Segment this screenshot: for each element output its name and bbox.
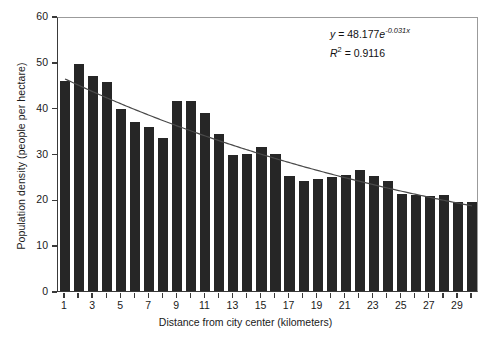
bar bbox=[341, 175, 351, 291]
bar bbox=[74, 64, 84, 291]
x-axis-title: Distance from city center (kilometers) bbox=[0, 316, 491, 328]
bar bbox=[383, 181, 393, 291]
bar bbox=[270, 154, 280, 292]
equation-line: y = 48.177e-0.031x bbox=[330, 23, 410, 42]
x-tick-mark bbox=[218, 293, 219, 298]
bar bbox=[60, 81, 70, 291]
y-tick-label: 50 bbox=[22, 56, 48, 68]
x-tick-mark bbox=[288, 293, 289, 298]
equation-annotation: y = 48.177e-0.031x R2 = 0.9116 bbox=[330, 23, 410, 60]
bar bbox=[116, 109, 126, 291]
bar bbox=[102, 82, 112, 291]
bar bbox=[411, 195, 421, 291]
x-tick-mark bbox=[176, 293, 177, 298]
x-tick-label: 9 bbox=[164, 299, 188, 311]
bar bbox=[256, 147, 266, 291]
bar bbox=[186, 101, 196, 291]
bar bbox=[130, 122, 140, 291]
x-tick-mark bbox=[120, 293, 121, 298]
x-tick-label: 27 bbox=[417, 299, 441, 311]
x-tick-mark bbox=[162, 293, 163, 298]
x-tick-mark bbox=[148, 293, 149, 298]
r-symbol: R bbox=[330, 46, 338, 58]
y-tick-label: 40 bbox=[22, 102, 48, 114]
x-tick-mark bbox=[386, 293, 387, 298]
bar bbox=[299, 181, 309, 291]
x-tick-label: 15 bbox=[248, 299, 272, 311]
x-tick-mark bbox=[372, 293, 373, 298]
r-squared-value: = 0.9116 bbox=[342, 46, 385, 58]
bar bbox=[425, 196, 435, 291]
y-tick-label: 10 bbox=[22, 239, 48, 251]
x-tick-mark bbox=[442, 293, 443, 298]
y-tick-label: 20 bbox=[22, 193, 48, 205]
bar bbox=[88, 76, 98, 291]
x-tick-mark bbox=[330, 293, 331, 298]
bar bbox=[214, 134, 224, 291]
x-tick-label: 3 bbox=[80, 299, 104, 311]
x-tick-mark bbox=[204, 293, 205, 298]
bar bbox=[228, 155, 238, 291]
bar bbox=[313, 179, 323, 291]
bar bbox=[242, 154, 252, 292]
equation-exponent: -0.031x bbox=[385, 26, 410, 35]
x-tick-mark bbox=[456, 293, 457, 298]
x-tick-mark bbox=[400, 293, 401, 298]
bar bbox=[453, 202, 463, 291]
bar bbox=[144, 127, 154, 291]
x-tick-mark bbox=[77, 293, 78, 298]
bar bbox=[327, 177, 337, 291]
x-tick-mark bbox=[232, 293, 233, 298]
bar bbox=[355, 170, 365, 291]
x-tick-mark bbox=[414, 293, 415, 298]
x-tick-mark bbox=[344, 293, 345, 298]
x-tick-mark bbox=[134, 293, 135, 298]
x-tick-label: 23 bbox=[361, 299, 385, 311]
x-tick-label: 7 bbox=[136, 299, 160, 311]
x-tick-mark bbox=[63, 293, 64, 298]
chart-figure: Population density (people per hectare) … bbox=[0, 0, 491, 343]
x-tick-label: 25 bbox=[389, 299, 413, 311]
bar bbox=[200, 113, 210, 291]
x-tick-mark bbox=[260, 293, 261, 298]
x-tick-mark bbox=[246, 293, 247, 298]
equation-coefficient: = 48.177 bbox=[335, 28, 379, 40]
bar bbox=[284, 176, 294, 292]
x-tick-mark bbox=[470, 293, 471, 298]
x-tick-mark bbox=[316, 293, 317, 298]
x-tick-label: 13 bbox=[220, 299, 244, 311]
x-tick-mark bbox=[358, 293, 359, 298]
bar bbox=[172, 101, 182, 291]
bar bbox=[158, 138, 168, 291]
bar bbox=[439, 195, 449, 291]
x-tick-label: 11 bbox=[192, 299, 216, 311]
bar bbox=[369, 176, 379, 291]
bar bbox=[397, 194, 407, 291]
y-tick-label: 0 bbox=[22, 285, 48, 297]
x-tick-mark bbox=[274, 293, 275, 298]
plot-area bbox=[57, 17, 478, 292]
x-tick-mark bbox=[106, 293, 107, 298]
x-tick-label: 21 bbox=[333, 299, 357, 311]
y-tick-label: 30 bbox=[22, 148, 48, 160]
x-tick-mark bbox=[190, 293, 191, 298]
x-tick-label: 17 bbox=[277, 299, 301, 311]
bar bbox=[467, 202, 477, 291]
x-tick-mark bbox=[428, 293, 429, 298]
x-tick-label: 19 bbox=[305, 299, 329, 311]
x-tick-label: 29 bbox=[445, 299, 469, 311]
x-tick-label: 1 bbox=[52, 299, 76, 311]
y-tick-label: 60 bbox=[22, 10, 48, 22]
r-squared-line: R2 = 0.9116 bbox=[330, 42, 410, 61]
x-tick-label: 5 bbox=[108, 299, 132, 311]
x-tick-mark bbox=[302, 293, 303, 298]
x-tick-mark bbox=[91, 293, 92, 298]
